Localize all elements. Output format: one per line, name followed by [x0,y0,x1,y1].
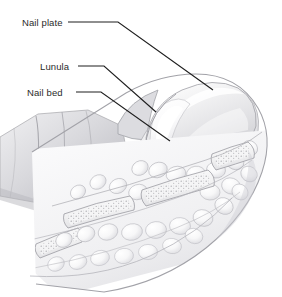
nail-anatomy-figure: Nail plate Lunula Nail bed [0,0,282,297]
label-lunula: Lunula [40,61,70,72]
leader-line-nail-plate [68,22,213,90]
label-nail-plate: Nail plate [22,17,63,28]
anatomy-illustration: Nail plate Lunula Nail bed [0,0,282,297]
fingertip-illustration: Nail plate Lunula Nail bed [0,17,276,296]
label-nail-bed: Nail bed [27,87,63,98]
labels-group: Nail plate Lunula Nail bed [22,17,70,98]
